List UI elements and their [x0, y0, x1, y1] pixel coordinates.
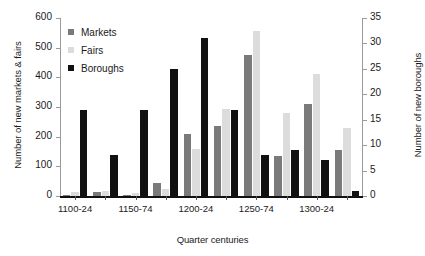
- x-axis-tick-label: 1250-74: [226, 203, 286, 214]
- bar-boroughs-1150-74: [140, 110, 148, 196]
- y-axis-right-tick: [363, 171, 367, 172]
- legend-label: Fairs: [81, 45, 103, 56]
- x-axis-tick-label: 1200-24: [166, 203, 226, 214]
- bar-boroughs-1125-49: [110, 155, 118, 196]
- y-axis-left-tick: [56, 196, 60, 197]
- legend-item-markets: Markets: [68, 24, 124, 40]
- y-axis-right-tick: [363, 94, 367, 95]
- bar-boroughs-1200-24: [201, 38, 209, 196]
- y-axis-left-tick-label: 0: [46, 189, 52, 200]
- bar-markets-1275-99: [274, 156, 282, 196]
- bar-boroughs-1100-24: [80, 110, 88, 196]
- bar-fairs-1300-24: [313, 74, 321, 196]
- legend-swatch-boroughs-icon: [68, 65, 74, 71]
- y-axis-right-tick: [363, 69, 367, 70]
- legend-swatch-fairs-icon: [68, 47, 74, 53]
- bar-fairs-1150-74: [132, 193, 140, 196]
- legend-label: Boroughs: [81, 63, 124, 74]
- x-axis-tick: [317, 196, 318, 200]
- y-axis-left-title: Number of new markets & fairs: [12, 5, 23, 205]
- y-axis-right-tick-label: 25: [370, 62, 381, 73]
- legend-swatch-markets-icon: [68, 29, 74, 35]
- bar-markets-1150-74: [123, 195, 131, 196]
- x-axis-tick-label: 1100-24: [45, 203, 105, 214]
- legend-item-fairs: Fairs: [68, 42, 124, 58]
- x-axis-tick: [347, 196, 348, 200]
- bar-markets-1325-49: [335, 150, 343, 196]
- bar-markets-1100-24: [63, 195, 71, 196]
- y-axis-right-tick-label: 10: [370, 138, 381, 149]
- y-axis-right-tick: [363, 196, 367, 197]
- bar-fairs-1325-49: [343, 128, 351, 196]
- y-axis-right-tick-label: 30: [370, 36, 381, 47]
- bar-markets-1225-49: [214, 126, 222, 196]
- legend-item-boroughs: Boroughs: [68, 60, 124, 76]
- chart-legend: MarketsFairsBoroughs: [68, 24, 124, 78]
- y-axis-left-tick-label: 200: [35, 130, 52, 141]
- bar-boroughs-1325-49: [352, 191, 360, 196]
- y-axis-right-tick: [363, 120, 367, 121]
- bar-markets-1250-74: [244, 55, 252, 196]
- x-axis-tick: [287, 196, 288, 200]
- x-axis-tick: [75, 196, 76, 200]
- bar-markets-1175-99: [153, 183, 161, 196]
- bar-boroughs-1300-24: [321, 160, 329, 196]
- bar-boroughs-1175-99: [170, 69, 178, 196]
- bar-fairs-1100-24: [71, 192, 79, 196]
- x-axis-tick-label: 1300-24: [287, 203, 347, 214]
- x-axis-tick-label: 1150-74: [106, 203, 166, 214]
- y-axis-right-tick-label: 20: [370, 87, 381, 98]
- x-axis-tick: [196, 196, 197, 200]
- y-axis-right-tick: [363, 43, 367, 44]
- x-axis-title: Quarter centuries: [0, 234, 425, 245]
- bar-fairs-1125-49: [102, 191, 110, 196]
- bar-markets-1200-24: [184, 134, 192, 196]
- chart-container: Number of new markets & fairs Number of …: [0, 0, 425, 256]
- bar-fairs-1175-99: [162, 189, 170, 196]
- y-axis-left-tick-label: 300: [35, 100, 52, 111]
- y-axis-right-tick-label: 15: [370, 113, 381, 124]
- bar-boroughs-1275-99: [291, 150, 299, 196]
- y-axis-left-tick-label: 600: [35, 11, 52, 22]
- x-axis-tick: [105, 196, 106, 200]
- y-axis-right-tick: [363, 145, 367, 146]
- legend-label: Markets: [81, 27, 117, 38]
- bar-boroughs-1225-49: [231, 110, 239, 196]
- x-axis-tick: [136, 196, 137, 200]
- bar-boroughs-1250-74: [261, 155, 269, 196]
- y-axis-left-tick-label: 400: [35, 70, 52, 81]
- bar-fairs-1250-74: [253, 31, 261, 196]
- y-axis-right-tick-label: 0: [370, 189, 376, 200]
- x-axis-tick: [256, 196, 257, 200]
- bar-fairs-1275-99: [283, 113, 291, 196]
- y-axis-right-title: Number of new boroughs: [412, 5, 423, 205]
- bar-markets-1300-24: [304, 104, 312, 196]
- bar-fairs-1225-49: [222, 109, 230, 196]
- y-axis-right-tick: [363, 18, 367, 19]
- bar-fairs-1200-24: [192, 149, 200, 196]
- y-axis-right-tick-label: 5: [370, 164, 376, 175]
- x-axis-tick: [226, 196, 227, 200]
- y-axis-left-tick-label: 500: [35, 41, 52, 52]
- y-axis-right-tick-label: 35: [370, 11, 381, 22]
- x-axis-tick: [166, 196, 167, 200]
- bar-markets-1125-49: [93, 192, 101, 196]
- y-axis-left-tick-label: 100: [35, 159, 52, 170]
